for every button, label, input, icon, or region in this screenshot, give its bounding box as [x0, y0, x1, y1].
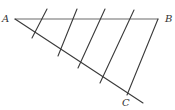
label-b: B	[164, 13, 172, 24]
transversal-line-1	[32, 9, 47, 38]
label-c: C	[122, 97, 130, 108]
geometry-diagram: A B C	[0, 0, 175, 110]
transversal-line-2	[58, 9, 77, 56]
label-a: A	[1, 13, 9, 24]
transversal-line-3	[78, 9, 105, 68]
transversal-line-4	[100, 10, 134, 83]
transversal-line-5	[127, 19, 158, 95]
transversals	[32, 9, 158, 95]
